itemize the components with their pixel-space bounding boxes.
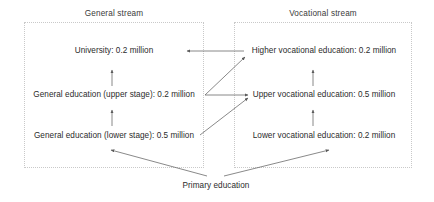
node-university: University: 0.2 million: [75, 47, 154, 55]
education-streams-diagram: General stream Vocational stream Univers…: [0, 0, 434, 202]
node-higher-vocational-education: Higher vocational education: 0.2 million: [252, 47, 396, 55]
node-lower-vocational-education: Lower vocational education: 0.2 million: [253, 132, 396, 140]
node-general-education-lower-stage: General education (lower stage): 0.5 mil…: [34, 132, 194, 140]
general-stream-title: General stream: [85, 9, 144, 18]
node-primary-education: Primary education: [183, 182, 250, 190]
vocational-stream-title: Vocational stream: [289, 9, 357, 18]
node-general-education-upper-stage: General education (upper stage): 0.2 mil…: [33, 91, 195, 99]
node-upper-vocational-education: Upper vocational education: 0.5 million: [253, 91, 396, 99]
